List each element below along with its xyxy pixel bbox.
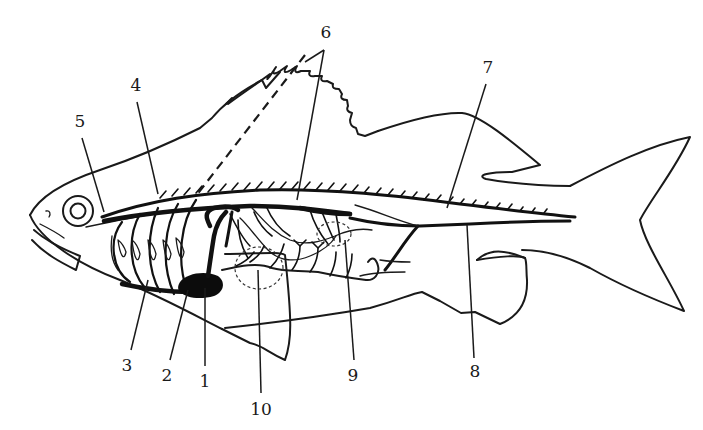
eye-pupil <box>71 204 86 219</box>
anal-fin <box>477 256 525 260</box>
sinus-venosus <box>208 212 226 276</box>
body-outline-ventral <box>30 215 222 329</box>
leader-line-6 <box>297 50 324 200</box>
visceral-vessels <box>230 206 352 278</box>
leader-line-3 <box>131 280 148 350</box>
spiny-dorsal-fin <box>226 66 378 136</box>
heart-atrium[interactable] <box>178 273 223 298</box>
ventral-thin-2 <box>380 260 410 262</box>
caudal-vessel <box>350 218 570 226</box>
label-10: 10 <box>250 401 272 418</box>
label-5: 5 <box>75 113 86 130</box>
mouth-jaw <box>32 230 80 270</box>
label-3: 3 <box>122 357 133 374</box>
label-6: 6 <box>321 24 332 41</box>
label-1: 1 <box>200 373 211 390</box>
gut-outline <box>222 259 378 281</box>
label-7: 7 <box>483 59 494 76</box>
leader-line-2 <box>170 290 188 360</box>
leader-line-6b <box>305 50 324 62</box>
label-8: 8 <box>470 363 481 380</box>
eye-outer <box>63 196 93 226</box>
label-4: 4 <box>131 77 142 94</box>
label-2: 2 <box>162 367 173 384</box>
fish-circulatory-diagram: 1 2 3 4 5 6 7 8 9 10 <box>0 0 703 430</box>
renal-branch-2 <box>336 214 340 242</box>
ventral-branch <box>385 226 418 270</box>
ventral-thin-3 <box>360 272 405 276</box>
caudal-fin <box>522 137 690 311</box>
leader-line-8 <box>467 225 474 358</box>
renal-branch-1 <box>322 212 334 240</box>
label-9: 9 <box>348 367 359 384</box>
dashed-guide-line <box>196 55 305 196</box>
leader-line-7 <box>447 84 486 208</box>
nostril <box>46 211 50 217</box>
leader-line-9 <box>345 240 354 360</box>
leader-lines <box>82 50 486 393</box>
